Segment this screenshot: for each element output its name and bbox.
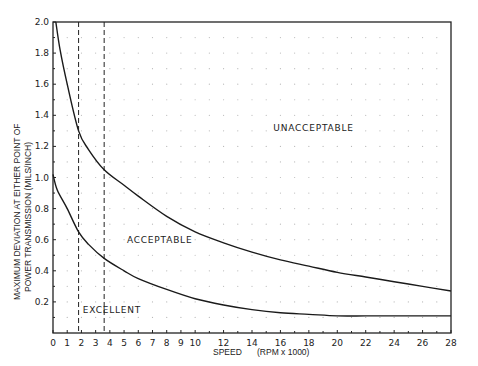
grid-dot: [180, 115, 181, 116]
grid-dot: [266, 53, 267, 54]
grid-dot: [294, 224, 295, 225]
grid-dot: [81, 130, 82, 131]
grid-dot: [251, 255, 252, 256]
grid-dot: [365, 270, 366, 271]
grid-dot: [180, 161, 181, 162]
region-label-excellent: EXCELLENT: [83, 305, 141, 315]
grid-dot: [152, 208, 153, 209]
grid-dot: [195, 177, 196, 178]
grid-dot: [237, 255, 238, 256]
grid-dot: [408, 192, 409, 193]
grid-dot: [152, 192, 153, 193]
x-tick-label: 4: [107, 338, 113, 348]
grid-dot: [209, 53, 210, 54]
y-axis-title-line2: POWER TRANSMISSION (MILS/INCH): [23, 142, 33, 292]
grid-dot: [109, 84, 110, 85]
y-tick-label: 1.0: [35, 173, 50, 183]
grid-dot: [337, 224, 338, 225]
grid-dot: [308, 255, 309, 256]
grid-dot: [436, 37, 437, 38]
grid-dot: [180, 130, 181, 131]
grid-dot: [266, 192, 267, 193]
grid-dot: [166, 301, 167, 302]
grid-dot: [180, 208, 181, 209]
grid-dot: [394, 317, 395, 318]
grid-dot: [209, 177, 210, 178]
grid-dot: [166, 99, 167, 100]
grid-dot: [166, 115, 167, 116]
grid-dot: [237, 286, 238, 287]
grid-dot: [422, 68, 423, 69]
grid-dot: [280, 301, 281, 302]
grid-dot: [180, 68, 181, 69]
grid-dot: [379, 53, 380, 54]
y-tick-label: 1.8: [35, 48, 50, 58]
grid-dot: [138, 317, 139, 318]
grid-dot: [365, 53, 366, 54]
grid-dot: [365, 286, 366, 287]
y-tick-label: 0.4: [35, 266, 50, 276]
grid-dot: [138, 286, 139, 287]
grid-dot: [209, 130, 210, 131]
grid-dot: [266, 130, 267, 131]
grid-dot: [379, 255, 380, 256]
grid-dot: [266, 270, 267, 271]
grid-dot: [280, 177, 281, 178]
grid-dot: [351, 255, 352, 256]
grid-dot: [67, 317, 68, 318]
grid-dot: [67, 192, 68, 193]
grid-dot: [280, 161, 281, 162]
grid-dot: [223, 68, 224, 69]
grid-dot: [95, 208, 96, 209]
grid-dot: [422, 224, 423, 225]
grid-dot: [266, 68, 267, 69]
grid-dot: [408, 53, 409, 54]
grid-dot: [81, 146, 82, 147]
grid-dot: [266, 161, 267, 162]
grid-dot: [365, 37, 366, 38]
grid-dot: [351, 192, 352, 193]
grid-dot: [408, 239, 409, 240]
grid-dot: [436, 115, 437, 116]
grid-dot: [337, 192, 338, 193]
grid-dot: [337, 177, 338, 178]
grid-dot: [81, 286, 82, 287]
grid-dot: [180, 37, 181, 38]
grid-dot: [138, 177, 139, 178]
grid-dot: [322, 255, 323, 256]
grid-dot: [436, 286, 437, 287]
grid-dot: [394, 224, 395, 225]
grid-dot: [280, 115, 281, 116]
grid-dot: [195, 286, 196, 287]
grid-dot: [223, 208, 224, 209]
grid-dot: [294, 37, 295, 38]
grid-dot: [322, 177, 323, 178]
grid-dot: [195, 161, 196, 162]
grid-dot: [123, 84, 124, 85]
grid-dot: [109, 146, 110, 147]
grid-dot: [280, 146, 281, 147]
grid-dot: [365, 255, 366, 256]
grid-dot: [109, 37, 110, 38]
grid-dot: [251, 115, 252, 116]
grid-dot: [280, 99, 281, 100]
grid-dot: [81, 53, 82, 54]
grid-dot: [138, 192, 139, 193]
x-tick-label: 24: [388, 338, 400, 348]
grid-dot: [322, 84, 323, 85]
x-tick-label: 22: [360, 338, 371, 348]
grid-dot: [209, 270, 210, 271]
x-tick-label: 7: [150, 338, 156, 348]
grid-dot: [166, 177, 167, 178]
grid-dot: [394, 301, 395, 302]
grid-dot: [138, 53, 139, 54]
grid-dot: [280, 192, 281, 193]
grid-dot: [251, 146, 252, 147]
grid-dot: [379, 146, 380, 147]
grid-dot: [209, 317, 210, 318]
grid-dot: [422, 161, 423, 162]
grid-dot: [195, 115, 196, 116]
grid-dot: [223, 146, 224, 147]
grid-dot: [138, 208, 139, 209]
grid-dot: [223, 286, 224, 287]
